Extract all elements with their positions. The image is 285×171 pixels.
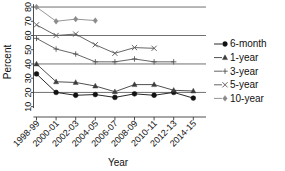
circle-marker xyxy=(113,95,118,100)
x-axis-title: Year xyxy=(108,157,129,168)
y-tick-label: 60 xyxy=(23,30,33,40)
y-axis-title: Percent xyxy=(2,45,13,80)
x-axis-tick-labels: 1998-992000-012002-032004-052006-072008-… xyxy=(11,118,198,148)
series-3-year xyxy=(34,36,177,65)
series-6-month xyxy=(34,72,196,101)
legend-label: 5-year xyxy=(230,79,259,90)
y-tick-label: 40 xyxy=(23,59,33,69)
data-series xyxy=(34,4,196,100)
cross-marker xyxy=(112,51,117,56)
diamond-marker xyxy=(73,16,78,22)
cross-marker xyxy=(222,82,227,87)
triangle-marker xyxy=(222,55,227,60)
circle-marker xyxy=(34,72,39,77)
series-line xyxy=(37,38,174,61)
cross-marker xyxy=(34,22,39,27)
legend-label: 6-month xyxy=(230,38,267,49)
circle-marker xyxy=(191,96,196,101)
circle-marker xyxy=(73,93,78,98)
circle-marker xyxy=(54,90,59,95)
y-tick-label: 70 xyxy=(23,16,33,26)
circle-marker xyxy=(223,42,228,47)
cross-marker xyxy=(93,42,98,47)
series-1-year xyxy=(34,61,196,94)
diamond-marker xyxy=(93,18,98,24)
series-line xyxy=(37,7,96,21)
legend-item-3-year[interactable]: 3-year xyxy=(214,66,259,77)
diamond-marker xyxy=(54,18,59,24)
plus-marker xyxy=(73,51,78,56)
y-tick-label: 10 xyxy=(23,102,33,112)
circle-marker xyxy=(152,93,157,98)
legend-label: 10-year xyxy=(230,93,265,104)
y-tick-label: 20 xyxy=(23,87,33,97)
y-tick-label: 80 xyxy=(23,2,33,12)
legend-item-6-month[interactable]: 6-month xyxy=(214,38,267,49)
chart-legend: 6-month1-year3-year5-year10-year xyxy=(214,38,267,103)
line-chart: 1020304050607080 1998-992000-012002-0320… xyxy=(0,0,285,171)
y-axis-tick-labels: 1020304050607080 xyxy=(23,2,33,112)
legend-label: 3-year xyxy=(230,66,259,77)
legend-label: 1-year xyxy=(230,52,259,63)
circle-marker xyxy=(132,91,137,96)
plus-marker xyxy=(34,36,39,41)
plus-marker xyxy=(132,56,137,61)
y-tick-label: 50 xyxy=(23,45,33,55)
y-tick-label: 30 xyxy=(23,73,33,83)
plus-marker xyxy=(222,69,227,74)
legend-item-5-year[interactable]: 5-year xyxy=(214,79,259,90)
legend-item-1-year[interactable]: 1-year xyxy=(214,52,259,63)
series-5-year xyxy=(34,22,157,56)
legend-item-10-year[interactable]: 10-year xyxy=(214,93,265,104)
series-line xyxy=(37,64,194,92)
diamond-marker xyxy=(223,96,228,102)
chart-container: 1020304050607080 1998-992000-012002-0320… xyxy=(0,0,285,171)
series-line xyxy=(37,74,194,98)
circle-marker xyxy=(93,92,98,97)
plus-marker xyxy=(53,46,58,51)
diamond-marker xyxy=(34,4,39,10)
